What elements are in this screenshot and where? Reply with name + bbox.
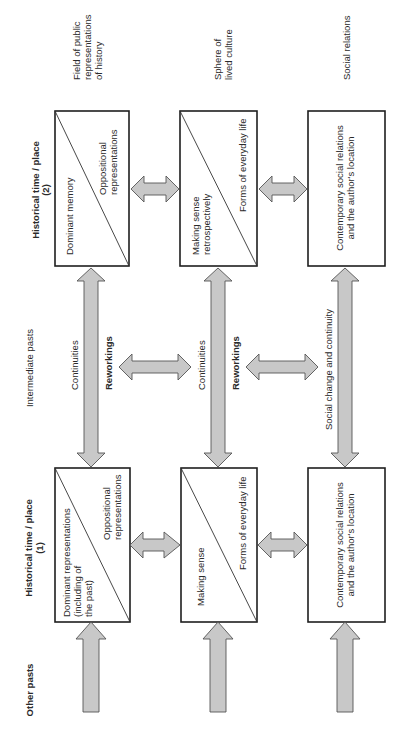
svg-text:Making sense: Making sense: [195, 547, 206, 606]
double-arrow-t2-public-lived: [131, 176, 179, 202]
svg-text:Historical time / place: Historical time / place: [23, 499, 34, 597]
svg-text:(2): (2): [40, 184, 51, 196]
box-t1-public: Dominant representations (including of t…: [55, 468, 130, 622]
arrow-t1-public-lived: [130, 532, 180, 558]
svg-text:Other pasts: Other pasts: [24, 664, 35, 717]
double-arrow-t1-lived-social: [258, 532, 307, 558]
label-reworkings-1: Reworkings: [103, 336, 114, 390]
column-header-lived: Sphere of lived culture: [212, 29, 234, 80]
box-t1-social: Contemporary social relations and the au…: [308, 468, 385, 622]
label-social-change: Social change and continuity: [323, 309, 334, 430]
svg-text:Contemporary social relations: Contemporary social relations: [334, 125, 345, 251]
svg-text:representations: representations: [108, 129, 119, 195]
box-t2-public: Dominant memory Oppositional representat…: [55, 111, 129, 266]
row-header-intermediate: Intermediate pasts: [24, 329, 35, 407]
svg-text:(1): (1): [34, 542, 45, 554]
svg-text:Oppositional: Oppositional: [101, 487, 112, 540]
svg-text:representations: representations: [82, 14, 93, 80]
svg-text:Intermediate pasts: Intermediate pasts: [24, 329, 35, 407]
column-header-social: Social relations: [341, 15, 352, 80]
double-arrow-mid-public-lived: [119, 354, 191, 380]
svg-text:Social relations: Social relations: [341, 15, 352, 80]
row-header-time2: Historical time / place (2): [30, 141, 51, 239]
svg-text:Dominant representations: Dominant representations: [61, 508, 72, 617]
label-continuities-2: Continuities: [196, 340, 207, 390]
svg-text:retrospectively: retrospectively: [201, 194, 212, 255]
row-header-other-pasts: Other pasts: [24, 664, 35, 717]
label-continuities-1: Continuities: [69, 340, 80, 390]
box-t1-lived: Making sense Forms of everyday life: [181, 468, 257, 622]
svg-text:Forms of everyday life: Forms of everyday life: [237, 119, 248, 212]
column-header-public: Field of public representations of histo…: [71, 14, 104, 80]
svg-text:lived culture: lived culture: [223, 29, 234, 80]
box-t2-social: Contemporary social relations and the au…: [308, 111, 385, 266]
vertical-arrow-public-continuities: [77, 268, 105, 467]
vertical-arrow-lived-continuities: [204, 268, 232, 467]
svg-text:of history: of history: [93, 41, 104, 80]
svg-text:the past): the past): [83, 580, 94, 617]
svg-text:representations: representations: [112, 474, 123, 540]
up-arrow-other-pasts-lived: [203, 622, 233, 712]
label-reworkings-2: Reworkings: [230, 336, 241, 390]
svg-text:and the author's location: and the author's location: [345, 136, 356, 239]
svg-text:Making sense: Making sense: [190, 196, 201, 255]
svg-text:Dominant memory: Dominant memory: [64, 177, 75, 255]
svg-text:Oppositional: Oppositional: [97, 142, 108, 195]
historical-memory-diagram: Field of public representations of histo…: [0, 0, 406, 741]
svg-text:Sphere of: Sphere of: [212, 38, 223, 80]
row-header-time1: Historical time / place (1): [23, 499, 45, 597]
up-arrow-other-pasts-public: [76, 622, 106, 712]
svg-text:Forms of everyday life: Forms of everyday life: [237, 477, 248, 570]
svg-text:Field of public: Field of public: [71, 21, 82, 80]
double-arrow-mid-lived-social: [246, 354, 318, 380]
double-arrow-t2-lived-social: [259, 176, 307, 202]
svg-text:Contemporary social relations: Contemporary social relations: [334, 482, 345, 608]
vertical-arrow-social-change: [331, 268, 359, 467]
svg-text:and the author's location: and the author's location: [345, 493, 356, 596]
up-arrow-other-pasts-social: [330, 622, 360, 712]
svg-text:(including of: (including of: [72, 565, 83, 617]
box-t2-lived: Making sense retrospectively Forms of ev…: [180, 111, 257, 266]
